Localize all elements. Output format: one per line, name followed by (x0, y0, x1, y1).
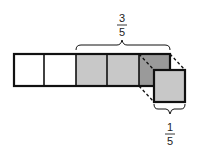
bottom-denominator: 5 (167, 135, 173, 147)
strip-cell-4 (107, 54, 139, 86)
top-numerator: 3 (119, 12, 125, 24)
top-denominator: 5 (119, 26, 125, 38)
bottom-numerator: 1 (167, 121, 173, 133)
strip-cell-2 (44, 54, 76, 86)
fraction-diagram: 3 5 1 5 (0, 0, 197, 152)
bottom-fraction-label: 1 5 (165, 121, 175, 147)
top-fraction-label: 3 5 (117, 12, 127, 38)
bottom-brace (154, 104, 185, 114)
strip-cell-1 (14, 54, 44, 86)
fraction-strip (14, 54, 170, 86)
strip-cell-3 (76, 54, 107, 86)
removed-part-square (154, 70, 185, 102)
top-brace (76, 40, 170, 50)
